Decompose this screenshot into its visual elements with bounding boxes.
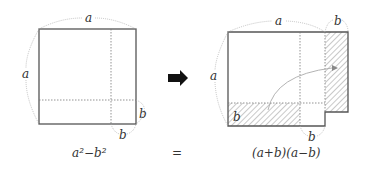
right-bottom-label: b — [308, 130, 316, 144]
right-strip-label: b — [233, 110, 241, 124]
right-side-label: a — [210, 69, 217, 83]
left-side-label: a — [22, 67, 29, 81]
left-figure: a a b b a²−b² — [22, 11, 147, 160]
right-figure: a b a b b (a+b)(a−b) — [210, 14, 348, 160]
left-caption: a²−b² — [72, 146, 107, 160]
right-caption: (a+b)(a−b) — [252, 146, 321, 160]
left-right-label: b — [139, 107, 147, 121]
equals-sign: = — [172, 146, 182, 160]
right-top-b-label: b — [334, 14, 342, 28]
left-square — [39, 29, 136, 124]
left-top-label: a — [85, 11, 92, 25]
diagram-canvas: a a b b a²−b² = a b a — [0, 0, 369, 171]
left-bottom-label: b — [119, 128, 127, 142]
right-top-label: a — [275, 14, 282, 28]
right-side-strip-hatch — [325, 32, 348, 112]
right-arrow-icon — [168, 70, 188, 86]
